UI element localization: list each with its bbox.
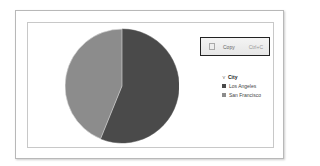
context-menu[interactable]: Copy Ctrl+C (200, 37, 270, 56)
copy-menu-item[interactable]: Copy (223, 44, 235, 50)
legend-swatch (222, 84, 226, 88)
legend: ⋎ City Los Angeles San Francisco (222, 72, 261, 99)
legend-item-san-francisco[interactable]: San Francisco (222, 90, 261, 99)
legend-label: San Francisco (229, 92, 261, 98)
copy-shortcut: Ctrl+C (249, 44, 263, 50)
legend-label: Los Angeles (229, 83, 256, 89)
filter-icon[interactable]: ⋎ (222, 74, 226, 80)
legend-swatch (222, 93, 226, 97)
copy-icon (209, 43, 215, 50)
legend-item-los-angeles[interactable]: Los Angeles (222, 81, 261, 90)
legend-title: City (228, 74, 237, 80)
pie-chart[interactable] (65, 28, 179, 144)
